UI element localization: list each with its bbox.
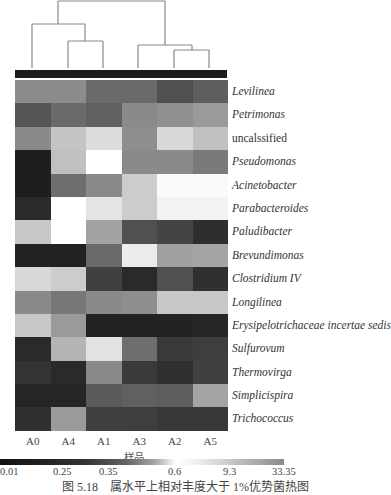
row-label: Simplicispira: [232, 384, 391, 407]
color-scale-tick: 0.01: [0, 466, 18, 477]
color-scale-tick: 9.3: [223, 466, 236, 477]
heatmap-cell: [51, 267, 87, 290]
row-labels: LevilineaPetrimonasuncalssifiedPseudomon…: [232, 80, 391, 431]
heatmap-cell: [86, 150, 122, 173]
heatmap-cell: [122, 291, 158, 314]
heatmap-cell: [157, 127, 193, 150]
heatmap-cell: [193, 197, 229, 220]
heatmap-cell: [122, 103, 158, 126]
row-label: Thermovirga: [232, 361, 391, 384]
row-label: Brevundimonas: [232, 244, 391, 267]
heatmap-cell: [15, 337, 51, 360]
heatmap-cell: [51, 384, 87, 407]
heatmap-cell: [86, 220, 122, 243]
row-label: Acinetobacter: [232, 174, 391, 197]
row-label: Clostridium IV: [232, 267, 391, 290]
heatmap-cell: [193, 220, 229, 243]
heatmap-cell: [86, 127, 122, 150]
heatmap-cell: [86, 267, 122, 290]
heatmap-cell: [157, 150, 193, 173]
column-label: A5: [193, 435, 229, 447]
heatmap-cell: [157, 197, 193, 220]
row-label: Sulfurovum: [232, 337, 391, 360]
heatmap-cell: [193, 361, 229, 384]
heatmap-cell: [193, 314, 229, 337]
color-scale-tick: 0.35: [99, 466, 117, 477]
heatmap-cell: [15, 384, 51, 407]
figure-caption: 图 5.18 属水平上相对丰度大于 1%优势菌热图: [62, 477, 309, 495]
heatmap-cell: [122, 244, 158, 267]
heatmap-cell: [15, 174, 51, 197]
heatmap-cell: [15, 314, 51, 337]
row-label: Paludibacter: [232, 220, 391, 243]
heatmap-cell: [51, 314, 87, 337]
heatmap-cell: [122, 220, 158, 243]
heatmap-cell: [193, 174, 229, 197]
heatmap-cell: [193, 267, 229, 290]
heatmap-cell: [122, 337, 158, 360]
heatmap-cell: [122, 267, 158, 290]
heatmap-cell: [51, 244, 87, 267]
heatmap-cell: [157, 361, 193, 384]
heatmap-cell: [157, 384, 193, 407]
column-labels: A0A4A1A3A2A5: [15, 435, 228, 447]
heatmap-cell: [122, 127, 158, 150]
heatmap-cell: [51, 361, 87, 384]
heatmap-cell: [193, 244, 229, 267]
heatmap-cell: [15, 407, 51, 430]
heatmap-cell: [193, 127, 229, 150]
heatmap-cell: [193, 291, 229, 314]
heatmap-cell: [51, 291, 87, 314]
heatmap-cell: [15, 361, 51, 384]
color-scale-tick: 0.25: [53, 466, 71, 477]
color-scale-tick: 0.6: [168, 466, 181, 477]
heatmap-cell: [15, 127, 51, 150]
heatmap-cell: [122, 314, 158, 337]
heatmap-cell: [157, 80, 193, 103]
color-scale-tick: 33.35: [272, 466, 296, 477]
column-label: A0: [15, 435, 51, 447]
heatmap-cell: [86, 103, 122, 126]
heatmap-cell: [157, 220, 193, 243]
heatmap-cell: [86, 244, 122, 267]
heatmap-cell: [157, 103, 193, 126]
heatmap-cell: [157, 337, 193, 360]
column-label: A1: [86, 435, 122, 447]
heatmap-cell: [157, 314, 193, 337]
row-label: Pseudomonas: [232, 150, 391, 173]
heatmap-cell: [122, 174, 158, 197]
heatmap-cell: [86, 337, 122, 360]
heatmap-cell: [51, 197, 87, 220]
column-label: A3: [122, 435, 158, 447]
heatmap-cell: [86, 291, 122, 314]
column-label: A2: [157, 435, 193, 447]
heatmap-grid: [15, 80, 228, 431]
heatmap-cell: [51, 220, 87, 243]
heatmap-cell: [15, 267, 51, 290]
heatmap-cell: [157, 267, 193, 290]
color-scale-bar: [0, 459, 284, 465]
heatmap-cell: [122, 80, 158, 103]
heatmap-cell: [51, 174, 87, 197]
heatmap-cell: [157, 291, 193, 314]
heatmap-cell: [15, 150, 51, 173]
row-label: Parabacteroides: [232, 197, 391, 220]
heatmap-cell: [86, 361, 122, 384]
row-label: Trichococcus: [232, 407, 391, 430]
heatmap-cell: [122, 197, 158, 220]
column-dendrogram: [0, 0, 240, 70]
heatmap-cell: [122, 384, 158, 407]
heatmap-cell: [15, 197, 51, 220]
heatmap-cell: [51, 127, 87, 150]
heatmap-cell: [193, 407, 229, 430]
heatmap-cell: [86, 384, 122, 407]
heatmap-cell: [86, 407, 122, 430]
row-label: Longilinea: [232, 291, 391, 314]
column-label: A4: [51, 435, 87, 447]
row-label: Petrimonas: [232, 103, 391, 126]
heatmap-cell: [51, 80, 87, 103]
row-label: uncalssified: [232, 127, 391, 150]
heatmap-cell: [193, 337, 229, 360]
heatmap-cell: [51, 337, 87, 360]
heatmap-cell: [51, 407, 87, 430]
